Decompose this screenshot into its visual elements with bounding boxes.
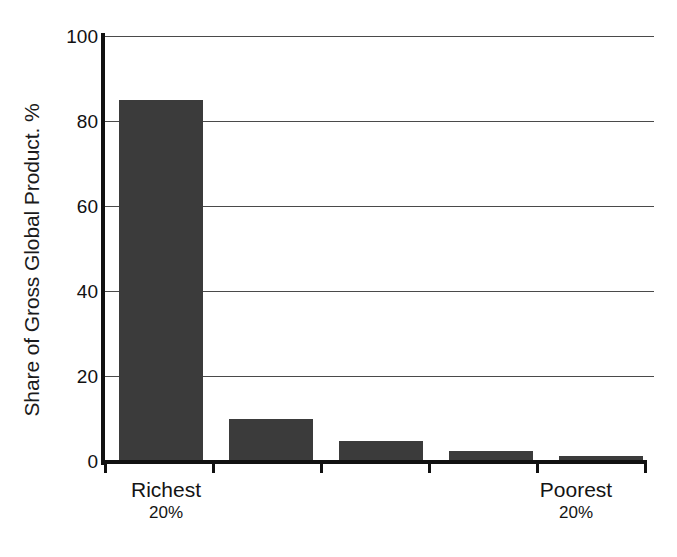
y-tick-label-40: 40 bbox=[52, 282, 98, 301]
y-tick-label-60: 60 bbox=[52, 197, 98, 216]
x-label-poorest-name: Poorest bbox=[496, 478, 656, 502]
x-label-richest: Richest 20% bbox=[86, 478, 246, 524]
x-label-richest-sub: 20% bbox=[86, 502, 246, 524]
bar-second-20 bbox=[229, 419, 313, 462]
x-tick-3 bbox=[428, 462, 431, 473]
y-tick-label-0: 0 bbox=[52, 452, 98, 471]
plot-area bbox=[104, 36, 654, 462]
y-axis-line bbox=[101, 33, 105, 465]
x-label-poorest-sub: 20% bbox=[496, 502, 656, 524]
x-label-richest-name: Richest bbox=[86, 478, 246, 502]
x-label-poorest: Poorest 20% bbox=[496, 478, 656, 524]
y-axis-tick-labels: 100 80 60 40 20 0 bbox=[48, 0, 98, 557]
x-tick-2 bbox=[320, 462, 323, 473]
y-tick-label-100: 100 bbox=[52, 27, 98, 46]
bar-richest-20 bbox=[119, 100, 203, 462]
x-tick-0 bbox=[104, 462, 107, 473]
x-tick-5 bbox=[644, 462, 647, 473]
gridline-100 bbox=[104, 36, 654, 37]
bar-third-20 bbox=[339, 441, 423, 462]
y-tick-label-20: 20 bbox=[52, 367, 98, 386]
x-axis-line bbox=[101, 460, 647, 464]
y-axis-title: Share of Gross Global Product. % bbox=[20, 103, 44, 416]
x-tick-4 bbox=[536, 462, 539, 473]
x-tick-1 bbox=[212, 462, 215, 473]
y-tick-label-80: 80 bbox=[52, 112, 98, 131]
bar-chart: Share of Gross Global Product. % 100 80 … bbox=[0, 0, 677, 557]
